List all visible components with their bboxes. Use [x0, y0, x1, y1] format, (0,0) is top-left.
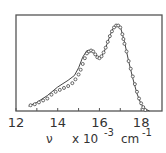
data-point	[104, 46, 107, 49]
data-point	[71, 82, 74, 85]
data-point	[77, 73, 80, 76]
data-point	[102, 51, 105, 54]
unit: cm	[121, 132, 139, 146]
data-point	[140, 102, 143, 105]
data-point	[81, 62, 84, 65]
data-point	[110, 30, 113, 33]
data-point	[122, 38, 125, 41]
unit-exponent: -1	[142, 127, 152, 138]
data-point	[54, 90, 57, 93]
data-point	[29, 104, 32, 107]
data-point	[129, 67, 132, 70]
data-point	[121, 33, 124, 36]
data-point	[42, 99, 45, 102]
x-tick-label: 14	[49, 115, 66, 130]
data-point	[127, 60, 130, 63]
spectrum-chart: 12141618 ν x 10 -3 cm -1	[0, 0, 166, 153]
data-point	[119, 26, 122, 29]
data-point	[83, 57, 86, 60]
data-point	[94, 53, 97, 56]
x-tick-label: 12	[8, 115, 25, 130]
data-point	[67, 85, 70, 88]
data-point	[62, 86, 65, 89]
data-point	[133, 83, 136, 86]
data-markers	[29, 24, 147, 111]
data-point	[131, 75, 134, 78]
data-point	[74, 78, 77, 81]
scale-exponent: -3	[104, 127, 114, 138]
x-axis-tick-labels: 12141618	[8, 115, 150, 130]
data-point	[58, 88, 61, 91]
data-point	[79, 68, 82, 71]
data-point	[92, 50, 95, 53]
data-point	[33, 103, 36, 106]
plot-frame	[16, 15, 162, 111]
data-point	[106, 40, 109, 43]
scale-factor: x 10	[72, 132, 98, 146]
data-point	[135, 90, 138, 93]
data-point	[100, 55, 103, 58]
data-point	[138, 97, 141, 100]
data-point	[144, 109, 147, 112]
data-point	[50, 93, 53, 96]
data-point	[46, 97, 49, 100]
data-point	[125, 50, 128, 53]
data-point	[37, 101, 40, 104]
nu-symbol: ν	[46, 132, 53, 146]
data-point	[123, 42, 126, 45]
data-point	[142, 106, 145, 109]
data-point	[108, 35, 111, 38]
